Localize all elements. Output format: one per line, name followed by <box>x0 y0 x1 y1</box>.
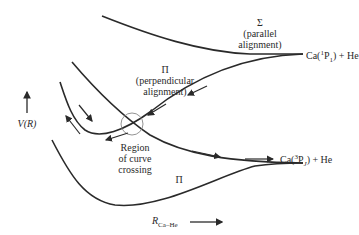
lower-asymptote-label: Ca(3PJ) + He <box>280 152 332 170</box>
pi-upper-label: Π (perpendicular alignment) <box>125 64 205 97</box>
arrow <box>66 116 80 134</box>
arrow <box>79 105 92 121</box>
arrow <box>192 151 220 157</box>
sigma-label: Σ (parallel alignment) <box>230 17 290 50</box>
upper-asymptote-label: Ca(1P1) + He <box>306 48 359 66</box>
arrow <box>106 133 128 140</box>
x-axis-label: RCa–He <box>152 215 178 231</box>
pi-lower-label: Π <box>172 174 186 185</box>
y-axis-label: V(R) <box>12 118 42 129</box>
pi-lower-curve <box>52 140 303 205</box>
crossing-label: Region of curve crossing <box>110 142 160 175</box>
